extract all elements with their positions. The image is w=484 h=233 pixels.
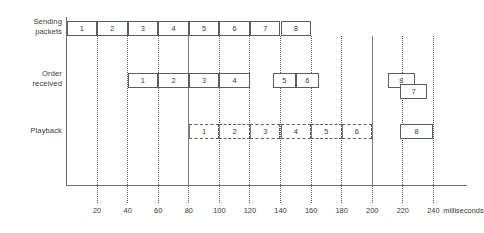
packet-box-sending-4: 4 — [158, 21, 189, 36]
packet-label: 7 — [263, 24, 267, 33]
row-label-playback: Playback — [2, 126, 62, 136]
tick-label-200ms: 200 — [358, 206, 386, 215]
packet-label: 1 — [80, 24, 84, 33]
packet-label: 2 — [171, 76, 175, 85]
tick-label-100ms: 100 — [205, 206, 233, 215]
packet-box-order-received-7: 7 — [400, 84, 428, 99]
gridline-120ms — [249, 36, 250, 203]
packet-box-playback-4: 4 — [281, 124, 312, 139]
time-axis-line — [66, 185, 467, 186]
packet-label: 6 — [305, 76, 309, 85]
gridline-140ms — [280, 36, 281, 203]
gridline-20ms — [97, 36, 98, 203]
row-label-line: packets — [2, 27, 62, 37]
gridline-60ms — [158, 36, 159, 203]
packet-box-order-received-1: 1 — [128, 73, 159, 88]
gridline-stub-80ms — [188, 186, 189, 203]
packet-label: 1 — [141, 76, 145, 85]
packet-box-playback-6: 6 — [342, 124, 373, 139]
packet-box-sending-3: 3 — [128, 21, 159, 36]
tick-label-160ms: 160 — [297, 206, 325, 215]
gridline-220ms — [402, 36, 403, 203]
packet-box-sending-8: 8 — [281, 21, 312, 36]
packet-box-order-received-2: 2 — [158, 73, 189, 88]
tick-label-140ms: 140 — [267, 206, 295, 215]
tick-label-180ms: 180 — [328, 206, 356, 215]
axis-unit-label: milliseconds — [443, 206, 483, 215]
packet-label: 4 — [171, 24, 175, 33]
packet-label: 2 — [233, 127, 237, 136]
tick-label-80ms: 80 — [175, 206, 203, 215]
packet-box-order-received-6: 6 — [296, 73, 319, 88]
packet-box-sending-2: 2 — [97, 21, 128, 36]
packet-box-playback-1: 1 — [189, 124, 220, 139]
gridline-200ms — [372, 36, 373, 185]
packet-box-playback-5: 5 — [311, 124, 342, 139]
packet-label: 5 — [324, 127, 328, 136]
tick-label-220ms: 220 — [389, 206, 417, 215]
packet-box-sending-5: 5 — [189, 21, 220, 36]
gridline-stub-200ms — [372, 186, 373, 203]
packet-label: 1 — [202, 127, 206, 136]
packet-label: 8 — [294, 24, 298, 33]
packet-label: 6 — [355, 127, 359, 136]
tick-label-20ms: 20 — [83, 206, 111, 215]
packet-label: 8 — [414, 127, 418, 136]
packet-box-order-received-3: 3 — [189, 73, 220, 88]
packet-label: 6 — [233, 24, 237, 33]
packet-box-sending-7: 7 — [250, 21, 281, 36]
gridline-100ms — [219, 36, 220, 203]
packet-label: 4 — [294, 127, 298, 136]
gridline-180ms — [341, 36, 342, 203]
packet-box-playback-8: 8 — [400, 124, 434, 139]
gridline-40ms — [127, 36, 128, 203]
row-label-line: received — [2, 79, 62, 89]
packet-label: 3 — [202, 76, 206, 85]
packet-box-playback-2: 2 — [219, 124, 250, 139]
vertical-axis — [66, 17, 67, 186]
tick-label-40ms: 40 — [114, 206, 142, 215]
packet-box-sending-6: 6 — [219, 21, 250, 36]
packet-label: 2 — [110, 24, 114, 33]
packet-box-playback-3: 3 — [250, 124, 281, 139]
packet-box-sending-1: 1 — [67, 21, 98, 36]
packet-box-order-received-4: 4 — [219, 73, 250, 88]
row-label-order-received: Orderreceived — [2, 69, 62, 88]
row-label-sending: Sendingpackets — [2, 17, 62, 36]
packet-box-order-received-5: 5 — [273, 73, 296, 88]
tick-label-120ms: 120 — [236, 206, 264, 215]
packet-label: 3 — [141, 24, 145, 33]
gridline-80ms — [188, 36, 189, 185]
gridline-160ms — [311, 36, 312, 203]
row-label-line: Playback — [2, 126, 62, 136]
packet-label: 4 — [233, 76, 237, 85]
row-label-line: Sending — [2, 17, 62, 27]
packet-label: 7 — [411, 87, 415, 96]
packet-label: 5 — [282, 76, 286, 85]
packet-label: 5 — [202, 24, 206, 33]
gridline-240ms — [433, 36, 434, 203]
packet-label: 3 — [263, 127, 267, 136]
row-label-line: Order — [2, 69, 62, 79]
tick-label-60ms: 60 — [144, 206, 172, 215]
